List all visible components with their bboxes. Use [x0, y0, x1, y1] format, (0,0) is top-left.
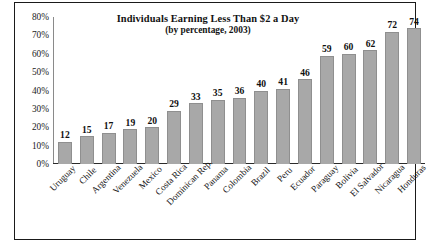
bar[interactable]: [320, 56, 334, 164]
bar[interactable]: [342, 54, 356, 164]
bars-layer: 1215171920293335364041465960627274: [54, 17, 425, 164]
bar[interactable]: [80, 136, 94, 164]
bar-value-label: 40: [250, 78, 272, 89]
x-axis-tick-labels: UruguayChileArgentinaVenezuelaMexicoCost…: [54, 165, 425, 239]
bar[interactable]: [58, 142, 72, 164]
bar-group[interactable]: 17: [98, 17, 120, 164]
y-axis-tick-label: 0%: [15, 159, 49, 169]
bar-group[interactable]: 35: [207, 17, 229, 164]
bar-value-label: 20: [141, 115, 163, 126]
bar-group[interactable]: 33: [185, 17, 207, 164]
bar-value-label: 62: [360, 38, 382, 49]
bar-group[interactable]: 29: [163, 17, 185, 164]
bar-group[interactable]: 19: [119, 17, 141, 164]
bar[interactable]: [233, 98, 247, 164]
bar-group[interactable]: 20: [141, 17, 163, 164]
bar-value-label: 59: [316, 43, 338, 54]
bar-group[interactable]: 74: [403, 17, 425, 164]
bar[interactable]: [145, 127, 159, 164]
bar-value-label: 41: [272, 76, 294, 87]
bar-group[interactable]: 41: [272, 17, 294, 164]
x-axis-tick-label-text: Uruguay: [48, 163, 78, 193]
y-axis-tick-label: 70%: [15, 30, 49, 40]
bar-group[interactable]: 72: [381, 17, 403, 164]
bar-value-label: 15: [76, 124, 98, 135]
bar-group[interactable]: 60: [338, 17, 360, 164]
bar-group[interactable]: 40: [250, 17, 272, 164]
bar[interactable]: [363, 50, 377, 164]
bar[interactable]: [298, 79, 312, 164]
chart-figure-frame: Individuals Earning Less Than $2 a Day (…: [14, 2, 416, 240]
bar-value-label: 72: [381, 19, 403, 30]
bar[interactable]: [167, 111, 181, 164]
bar-value-label: 17: [98, 120, 120, 131]
bar-value-label: 29: [163, 98, 185, 109]
bar-value-label: 46: [294, 67, 316, 78]
y-axis-tick-labels: 80%70%60%50%40%30%20%10%0%: [15, 17, 49, 164]
y-axis-tick-label: 30%: [15, 104, 49, 114]
bar[interactable]: [123, 129, 137, 164]
bar-value-label: 33: [185, 91, 207, 102]
y-axis-tick-label: 80%: [15, 12, 49, 22]
bar-group[interactable]: 59: [316, 17, 338, 164]
y-axis-tick-label: 40%: [15, 86, 49, 96]
bar-group[interactable]: 46: [294, 17, 316, 164]
bar-group[interactable]: 15: [76, 17, 98, 164]
bar[interactable]: [385, 32, 399, 164]
bar-value-label: 35: [207, 87, 229, 98]
bar-group[interactable]: 62: [360, 17, 382, 164]
bar[interactable]: [189, 103, 203, 164]
bar[interactable]: [276, 89, 290, 164]
bar[interactable]: [102, 133, 116, 164]
bar-value-label: 12: [54, 129, 76, 140]
bar-group[interactable]: 12: [54, 17, 76, 164]
y-axis-tick-label: 60%: [15, 49, 49, 59]
bar[interactable]: [211, 100, 225, 164]
bar[interactable]: [407, 28, 421, 164]
y-axis-tick-label: 50%: [15, 67, 49, 77]
x-axis-tick-label: Uruguay: [48, 165, 76, 193]
y-axis-tick-label: 10%: [15, 141, 49, 151]
bar-value-label: 19: [119, 117, 141, 128]
bar-value-label: 74: [403, 16, 425, 27]
bar-group[interactable]: 36: [229, 17, 251, 164]
bar-value-label: 60: [338, 41, 360, 52]
y-axis-tick-label: 20%: [15, 122, 49, 132]
bar-value-label: 36: [229, 85, 251, 96]
bar[interactable]: [254, 91, 268, 165]
